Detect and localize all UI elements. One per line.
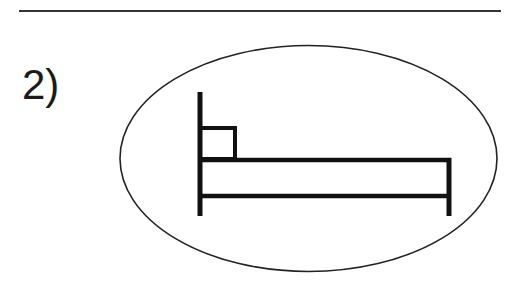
bed-icon (200, 92, 451, 216)
diagram-canvas (0, 0, 527, 282)
bed-pillow (200, 128, 235, 159)
item-number-label: 2) (22, 64, 59, 106)
